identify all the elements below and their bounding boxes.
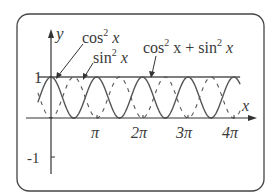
svg-text:cos2x + sin2x: cos2x + sin2x	[143, 37, 233, 56]
y-axis-arrow-icon	[48, 29, 54, 38]
cos2-arrow-line	[58, 44, 83, 76]
sum-cos: cos	[143, 39, 164, 56]
sin2-base: sin	[93, 49, 112, 66]
sin2-arrow-line	[85, 63, 93, 76]
curve-cos2	[38, 77, 240, 118]
cos2-arrow-head-icon	[56, 72, 62, 79]
sum-arrow-line	[152, 56, 156, 74]
y-tick-label-one: 1	[34, 69, 42, 86]
sum-exp2: 2	[217, 37, 222, 48]
y-tick-label-minus-one: -1	[27, 150, 40, 166]
sum-var: x	[225, 39, 233, 56]
annotation-sin2: sin2x	[83, 47, 128, 80]
x-tick-label-pi: π	[91, 124, 100, 141]
y-axis-label: y	[54, 24, 64, 43]
x-axis-label: x	[241, 97, 249, 114]
x-tick-label-4pi: 4π	[222, 124, 239, 141]
sin2-exp: 2	[112, 47, 117, 58]
sum-exp1: 2	[164, 37, 169, 48]
cos2-var: x	[111, 29, 119, 46]
sin2-var: x	[120, 49, 128, 66]
annotation-sum: cos2x + sin2x	[143, 37, 233, 78]
x-axis-arrow-icon	[248, 115, 257, 121]
svg-text:cos2x: cos2x	[82, 27, 119, 46]
cos2-base: cos	[82, 29, 103, 46]
x-tick-label-2pi: 2π	[131, 124, 148, 141]
x-tick-label-3pi: 3π	[175, 124, 193, 141]
axes	[26, 29, 257, 174]
sum-mid: x + sin	[173, 39, 217, 56]
chart-figure: y x 1 -1 π 2π 3π 4π cos2x sin2x cos2x + …	[0, 0, 278, 196]
plot-curves	[38, 77, 240, 118]
svg-text:sin2x: sin2x	[93, 47, 128, 66]
cos2-exp: 2	[103, 27, 108, 38]
